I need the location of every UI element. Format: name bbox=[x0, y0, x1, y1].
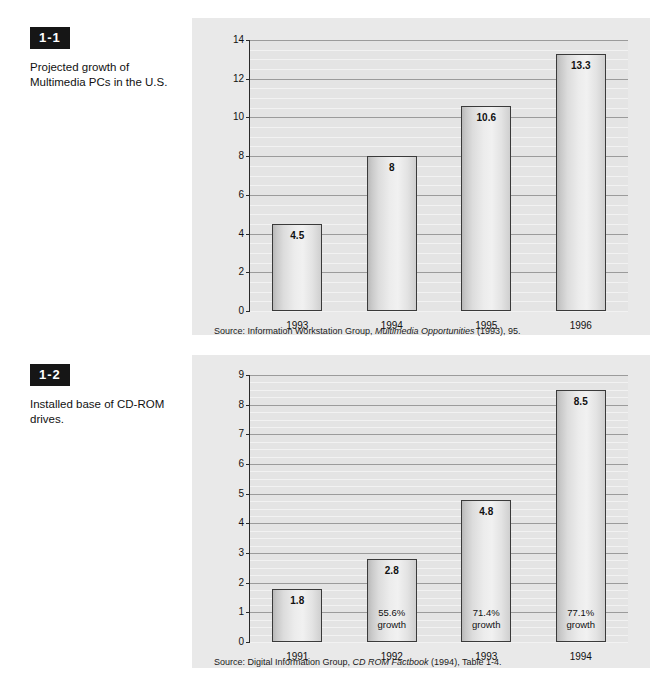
gridline bbox=[250, 375, 628, 376]
bar-growth-word: growth bbox=[462, 619, 510, 631]
bar: 4.5 bbox=[272, 224, 322, 311]
y-axis-tick-label: 7 bbox=[238, 429, 244, 439]
y-axis-tick-mark bbox=[246, 234, 250, 235]
bar: 8.577.1%growth bbox=[556, 390, 606, 642]
bar-growth-percent: 55.6% bbox=[368, 607, 416, 619]
y-axis-tick-label: 2 bbox=[238, 267, 244, 277]
bar: 10.6 bbox=[461, 106, 511, 311]
x-axis-category-label: 1994 bbox=[534, 651, 629, 662]
plot-wrapper-1: Multimedia PCs in millions 024681012144.… bbox=[192, 18, 650, 335]
minor-gridline bbox=[250, 50, 628, 51]
y-axis-tick-label: 2 bbox=[238, 578, 244, 588]
bar-value-label: 8.5 bbox=[557, 396, 605, 407]
y-axis-tick-label: 8 bbox=[238, 400, 244, 410]
figure-caption-text-1: Projected growth of Multimedia PCs in th… bbox=[30, 60, 185, 90]
bar: 13.3 bbox=[556, 54, 606, 311]
chart-panel-1: Multimedia PCs in millions 024681012144.… bbox=[192, 18, 650, 335]
bar-growth-percent: 71.4% bbox=[462, 607, 510, 619]
y-axis-tick-mark bbox=[246, 612, 250, 613]
y-axis-tick-label: 12 bbox=[233, 74, 244, 84]
y-axis-title-2: Installed base of CD-ROM drives in milli… bbox=[202, 395, 220, 625]
y-axis-tick-mark bbox=[246, 156, 250, 157]
plot-area-1: 024681012144.519938199410.6199513.31996 bbox=[249, 40, 628, 312]
y-axis-tick-label: 5 bbox=[238, 489, 244, 499]
bar-growth-word: growth bbox=[557, 619, 605, 631]
y-axis-tick-mark bbox=[246, 494, 250, 495]
bar-value-label: 4.8 bbox=[462, 506, 510, 517]
y-axis-tick-mark bbox=[246, 195, 250, 196]
y-axis-tick-label: 6 bbox=[238, 459, 244, 469]
y-axis-tick-mark bbox=[246, 311, 250, 312]
y-axis-tick-label: 0 bbox=[238, 637, 244, 647]
source-note-2: Source: Digital Information Group, CD RO… bbox=[214, 657, 502, 668]
bar: 2.855.6%growth bbox=[367, 559, 417, 642]
y-axis-tick-label: 1 bbox=[238, 607, 244, 617]
y-axis-tick-label: 14 bbox=[233, 35, 244, 45]
source-note-1: Source: Information Workstation Group, M… bbox=[214, 326, 520, 337]
gridline bbox=[250, 40, 628, 41]
y-axis-tick-label: 3 bbox=[238, 548, 244, 558]
figure-caption-column-2: 1-2 Installed base of CD-ROM drives. bbox=[30, 364, 185, 427]
y-axis-tick-mark bbox=[246, 117, 250, 118]
y-axis-title-1: Multimedia PCs in millions bbox=[202, 78, 220, 258]
bar: 4.871.4%growth bbox=[461, 500, 511, 642]
minor-gridline bbox=[250, 642, 628, 643]
figure-caption-text-2: Installed base of CD-ROM drives. bbox=[30, 397, 185, 427]
source-suffix-2: (1994), Table 1-4. bbox=[429, 657, 502, 667]
y-axis-tick-label: 4 bbox=[238, 518, 244, 528]
minor-gridline bbox=[250, 382, 628, 383]
bar-value-label: 10.6 bbox=[462, 112, 510, 123]
y-axis-tick-mark bbox=[246, 40, 250, 41]
source-title-1: Multimedia Opportunities bbox=[375, 326, 475, 336]
bar-value-label: 1.8 bbox=[273, 595, 321, 606]
source-prefix-1: Source: Information Workstation Group, bbox=[214, 326, 375, 336]
y-axis-tick-mark bbox=[246, 523, 250, 524]
minor-gridline bbox=[250, 311, 628, 312]
y-axis-tick-mark bbox=[246, 434, 250, 435]
source-suffix-1: (1993), 95. bbox=[474, 326, 520, 336]
figure-number-badge-2: 1-2 bbox=[30, 364, 70, 386]
bar-value-label: 13.3 bbox=[557, 60, 605, 71]
plot-wrapper-2: Installed base of CD-ROM drives in milli… bbox=[192, 355, 650, 668]
y-axis-tick-label: 8 bbox=[238, 151, 244, 161]
bar-growth-label: 55.6%growth bbox=[368, 607, 416, 631]
y-axis-tick-label: 0 bbox=[238, 306, 244, 316]
y-axis-tick-label: 6 bbox=[238, 190, 244, 200]
y-axis-tick-mark bbox=[246, 405, 250, 406]
bar-growth-percent: 77.1% bbox=[557, 607, 605, 619]
y-axis-tick-mark bbox=[246, 553, 250, 554]
bar-value-label: 2.8 bbox=[368, 565, 416, 576]
y-axis-tick-label: 10 bbox=[233, 112, 244, 122]
source-prefix-2: Source: Digital Information Group, bbox=[214, 657, 353, 667]
y-axis-tick-mark bbox=[246, 583, 250, 584]
bar: 8 bbox=[367, 156, 417, 311]
bar-value-label: 8 bbox=[368, 162, 416, 173]
bar: 1.8 bbox=[272, 589, 322, 642]
plot-area-2: 01234567891.819912.855.6%growth19924.871… bbox=[249, 375, 628, 643]
figure-caption-column-1: 1-1 Projected growth of Multimedia PCs i… bbox=[30, 27, 185, 90]
chart-panel-2: Installed base of CD-ROM drives in milli… bbox=[192, 355, 650, 668]
bar-growth-word: growth bbox=[368, 619, 416, 631]
y-axis-tick-mark bbox=[246, 375, 250, 376]
figure-number-badge-1: 1-1 bbox=[30, 27, 70, 49]
y-axis-tick-label: 4 bbox=[238, 229, 244, 239]
y-axis-tick-mark bbox=[246, 79, 250, 80]
x-axis-category-label: 1996 bbox=[534, 320, 629, 331]
bar-value-label: 4.5 bbox=[273, 230, 321, 241]
source-title-2: CD ROM Factbook bbox=[353, 657, 429, 667]
y-axis-tick-label: 9 bbox=[238, 370, 244, 380]
y-axis-tick-mark bbox=[246, 642, 250, 643]
y-axis-tick-mark bbox=[246, 272, 250, 273]
bar-growth-label: 71.4%growth bbox=[462, 607, 510, 631]
y-axis-tick-mark bbox=[246, 464, 250, 465]
bar-growth-label: 77.1%growth bbox=[557, 607, 605, 631]
